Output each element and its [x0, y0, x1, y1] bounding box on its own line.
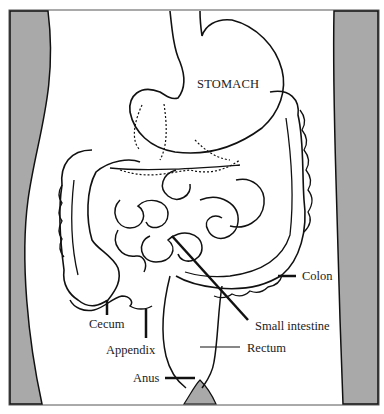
- digestive-diagram: [0, 0, 384, 414]
- label-cecum: Cecum: [89, 318, 124, 331]
- label-rectum: Rectum: [247, 342, 286, 355]
- label-small-intestine: Small intestine: [255, 320, 330, 333]
- label-stomach: STOMACH: [197, 78, 259, 91]
- label-appendix: Appendix: [106, 344, 155, 357]
- right-body-side: [334, 11, 378, 404]
- label-colon: Colon: [302, 270, 333, 283]
- frame: [9, 10, 379, 405]
- label-anus: Anus: [133, 372, 159, 385]
